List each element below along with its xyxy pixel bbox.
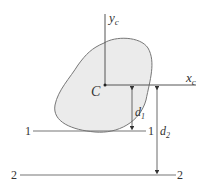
d2-label: d2 <box>160 124 170 140</box>
yc-axis-label: yc <box>107 10 119 27</box>
line-1-left-label: 1 <box>25 124 31 138</box>
xc-axis-label: xc <box>185 70 196 87</box>
line-2-right-label: 2 <box>177 168 183 182</box>
line-2-left-label: 2 <box>11 168 17 182</box>
diagram-canvas: yc xc C d1 d2 1 1 2 2 <box>0 0 208 194</box>
centroid-dot <box>104 84 107 87</box>
line-1-right-label: 1 <box>148 124 154 138</box>
parallel-axis-diagram: yc xc C d1 d2 1 1 2 2 <box>0 0 208 194</box>
centroid-label: C <box>91 84 101 99</box>
